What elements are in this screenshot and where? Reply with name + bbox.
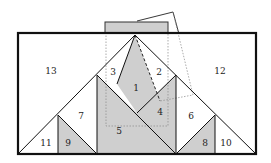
label-8: 8 <box>202 138 208 148</box>
label-12: 12 <box>214 66 225 76</box>
label-10: 10 <box>220 138 232 148</box>
label-9: 9 <box>65 138 71 148</box>
label-7: 7 <box>78 111 84 121</box>
label-3: 3 <box>110 67 116 77</box>
label-4: 4 <box>157 107 163 117</box>
label-6: 6 <box>188 111 194 121</box>
top-shaded-rect <box>105 22 168 33</box>
label-13: 13 <box>45 66 57 76</box>
label-5: 5 <box>116 126 122 136</box>
label-11: 11 <box>40 138 51 148</box>
label-1: 1 <box>133 83 139 93</box>
label-2: 2 <box>156 67 162 77</box>
dissection-diagram: 1 2 3 4 5 6 7 8 9 10 11 12 13 <box>0 0 271 163</box>
